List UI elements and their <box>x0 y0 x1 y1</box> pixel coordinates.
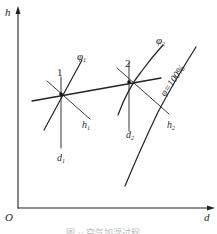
d1-subscript: 1 <box>62 158 65 164</box>
h1-label: h1 <box>82 119 90 131</box>
figure-caption: 图 ·· 空气加湿过程 <box>66 227 140 234</box>
origin-label: O <box>5 211 13 223</box>
h2-subscript: 2 <box>172 125 175 131</box>
phi2-curve <box>118 45 163 115</box>
point-2-label: 2 <box>125 57 131 69</box>
point-1-marker <box>59 92 63 96</box>
saturation-curve-label: φ=100% <box>158 63 187 98</box>
hd-diagram: h O d 1 φ1 h1 d1 2 φ2 h2 d2 φ=100% 图 ·· … <box>0 0 217 234</box>
phi2-label: φ2 <box>156 34 165 47</box>
saturation-curve-group: φ=100% <box>125 47 196 186</box>
y-axis-arrow-icon <box>16 6 21 14</box>
h2-label: h2 <box>167 119 175 131</box>
d1-label: d1 <box>57 152 65 164</box>
point-2-marker <box>127 80 131 84</box>
x-axis-label: d <box>204 211 210 223</box>
x-axis-arrow-icon <box>207 206 215 211</box>
h1-subscript: 1 <box>87 125 90 131</box>
phi1-label: φ1 <box>77 50 86 63</box>
phi1-subscript: 1 <box>83 57 86 63</box>
point-1-group: 1 φ1 h1 d1 <box>44 50 90 164</box>
d2-subscript: 2 <box>131 135 134 141</box>
point-1-label: 1 <box>57 66 63 78</box>
d2-label: d2 <box>126 129 134 141</box>
y-axis-label: h <box>5 6 11 18</box>
phi2-subscript: 2 <box>162 41 165 47</box>
axes: h O d <box>5 6 215 223</box>
